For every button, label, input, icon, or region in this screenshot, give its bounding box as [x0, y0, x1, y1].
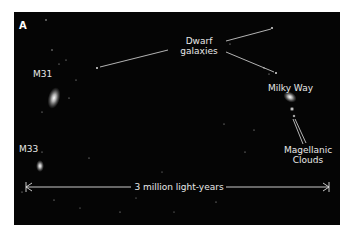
milky-way-label: Milky Way: [268, 83, 313, 93]
m33-galaxy: [36, 160, 44, 172]
magellanic-leader-line: [293, 119, 303, 144]
galaxy-image-panel: A M31 M33 Milky Way Dwarf galaxies Magel…: [14, 12, 340, 225]
dwarf-label-line2: galaxies: [174, 46, 224, 56]
magellanic-leader-line: [295, 119, 306, 143]
dwarf-leader-line: [226, 52, 274, 72]
dwarf-leader-line: [226, 29, 271, 41]
dwarf-galaxy-dot: [96, 67, 98, 69]
magellanic-clouds-label: Magellanic Clouds: [280, 145, 336, 165]
magellanic-label-line2: Clouds: [280, 155, 336, 165]
panel-label: A: [19, 20, 27, 31]
dwarf-galaxy-dot: [275, 72, 277, 74]
dwarf-galaxy-dot: [271, 27, 273, 29]
m31-galaxy: [45, 86, 62, 110]
magellanic-label-line1: Magellanic: [280, 145, 336, 155]
dwarf-label-line1: Dwarf: [174, 36, 224, 46]
m31-label: M31: [33, 69, 52, 79]
dwarf-leader-line: [100, 50, 168, 67]
scale-label: 3 million light-years: [133, 182, 225, 192]
m33-label: M33: [19, 144, 38, 154]
magellanic-cloud-small: [292, 114, 296, 118]
dwarf-galaxies-label: Dwarf galaxies: [174, 36, 224, 56]
magellanic-cloud-large: [290, 107, 295, 112]
